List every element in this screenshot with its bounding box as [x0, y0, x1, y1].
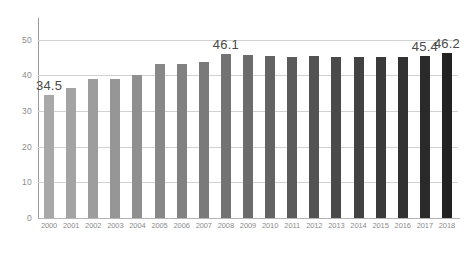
bar-slot: 46.2 [436, 22, 458, 218]
bar-slot [193, 22, 215, 218]
bar [243, 55, 253, 218]
bar-value-label: 46.2 [434, 36, 460, 51]
bar: 34.5 [44, 95, 54, 218]
bar [265, 56, 275, 219]
bar [177, 64, 187, 218]
y-tick-label: 50 [22, 35, 32, 45]
bar [398, 57, 408, 218]
bar [376, 57, 386, 218]
bar-slot [60, 22, 82, 218]
bar-slot [237, 22, 259, 218]
bar-slot [370, 22, 392, 218]
bar: 46.2 [442, 53, 452, 218]
bar-slot: 45.4 [414, 22, 436, 218]
bar-slot [325, 22, 347, 218]
x-tick-label: 2017 [414, 221, 436, 230]
x-tick-label: 2008 [215, 221, 237, 230]
x-tick-label: 2007 [193, 221, 215, 230]
x-axis-baseline [38, 218, 460, 219]
x-tick-label: 2001 [60, 221, 82, 230]
x-tick-label: 2004 [126, 221, 148, 230]
x-tick-label: 2012 [303, 221, 325, 230]
bar [287, 57, 297, 218]
y-tick-label: 40 [22, 70, 32, 80]
bar [110, 79, 120, 218]
bar-slot [104, 22, 126, 218]
y-tick-label: 20 [22, 142, 32, 152]
y-tick-label: 10 [22, 177, 32, 187]
bar-chart: 01020304050 34.546.145.446.2 20002001200… [0, 0, 469, 254]
x-tick-label: 2011 [281, 221, 303, 230]
x-tick-label: 2009 [237, 221, 259, 230]
x-tick-label: 2015 [370, 221, 392, 230]
x-tick-label: 2005 [149, 221, 171, 230]
bar: 45.4 [420, 56, 430, 218]
bar-slot [347, 22, 369, 218]
x-axis-tick-labels: 2000200120022003200420052006200720082009… [38, 221, 458, 237]
bar-slot [392, 22, 414, 218]
bar-slot: 46.1 [215, 22, 237, 218]
x-tick-label: 2003 [104, 221, 126, 230]
x-tick-label: 2013 [325, 221, 347, 230]
bar [132, 75, 142, 218]
bar-slot [259, 22, 281, 218]
bar: 46.1 [221, 54, 231, 218]
y-tick-label: 30 [22, 106, 32, 116]
bar [199, 62, 209, 218]
bar-slot [126, 22, 148, 218]
bar-slot [149, 22, 171, 218]
bar [354, 57, 364, 218]
y-tick-label: 0 [27, 213, 32, 223]
x-tick-label: 2000 [38, 221, 60, 230]
bar [66, 88, 76, 218]
bar [309, 56, 319, 219]
x-tick-label: 2014 [347, 221, 369, 230]
bar-slot [171, 22, 193, 218]
bar-series: 34.546.145.446.2 [38, 22, 458, 218]
bar [88, 79, 98, 218]
bar-slot [303, 22, 325, 218]
bar-slot [281, 22, 303, 218]
x-tick-label: 2010 [259, 221, 281, 230]
bar-slot: 34.5 [38, 22, 60, 218]
bar-value-label: 34.5 [36, 78, 62, 93]
x-tick-label: 2016 [392, 221, 414, 230]
x-tick-label: 2002 [82, 221, 104, 230]
bar-slot [82, 22, 104, 218]
bar-value-label: 46.1 [213, 37, 239, 52]
x-tick-label: 2006 [171, 221, 193, 230]
bar [155, 64, 165, 218]
plot-area: 01020304050 34.546.145.446.2 [38, 22, 458, 218]
bar [331, 57, 341, 218]
x-tick-label: 2018 [436, 221, 458, 230]
